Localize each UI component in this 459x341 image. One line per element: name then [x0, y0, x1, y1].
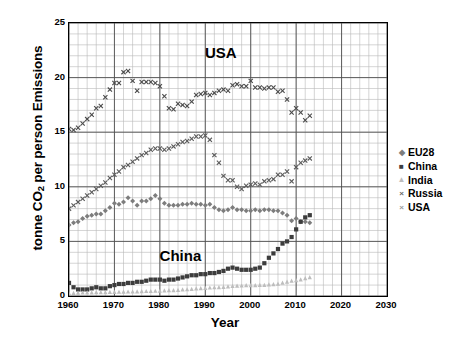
y-tick-25: 25 [35, 17, 65, 27]
legend-marker-icon: ■ [396, 163, 407, 171]
x-tick-2030: 2030 [366, 300, 406, 310]
x-tick-2020: 2020 [321, 300, 361, 310]
plot-area [68, 22, 388, 297]
y-axis-title-post: per person Emissions [30, 46, 45, 187]
annotation-usa: USA [205, 44, 237, 61]
chart-figure: tonne CO2 per person Emissions 051015202… [0, 0, 459, 341]
legend-marker-icon: ▲ [396, 176, 407, 184]
legend-label: India [408, 174, 433, 188]
y-axis-title: tonne CO2 per person Emissions [30, 28, 46, 268]
y-tick-20: 20 [35, 72, 65, 82]
legend-label: EU28 [408, 146, 434, 160]
legend-marker-icon: × [396, 190, 407, 198]
legend-marker-icon: ◆ [396, 149, 407, 157]
y-tick-10: 10 [35, 181, 65, 191]
chart-legend: ◆EU28■China▲India×Russia×USA [396, 146, 442, 215]
legend-item-india[interactable]: ▲India [396, 174, 442, 188]
legend-marker-icon: × [396, 204, 407, 212]
x-tick-1970: 1970 [93, 300, 133, 310]
legend-item-russia[interactable]: ×Russia [396, 187, 442, 201]
annotation-china: China [160, 247, 202, 264]
x-axis-title: Year [150, 315, 300, 330]
legend-item-eu28[interactable]: ◆EU28 [396, 146, 442, 160]
y-tick-5: 5 [35, 235, 65, 245]
legend-label: USA [408, 201, 430, 215]
legend-label: China [408, 160, 437, 174]
x-tick-2010: 2010 [275, 300, 315, 310]
grid-and-data [69, 23, 387, 296]
y-tick-15: 15 [35, 126, 65, 136]
x-tick-1980: 1980 [139, 300, 179, 310]
legend-item-usa[interactable]: ×USA [396, 201, 442, 215]
x-tick-1990: 1990 [184, 300, 224, 310]
x-tick-1960: 1960 [48, 300, 88, 310]
x-tick-2000: 2000 [230, 300, 270, 310]
legend-label: Russia [408, 187, 442, 201]
legend-item-china[interactable]: ■China [396, 160, 442, 174]
